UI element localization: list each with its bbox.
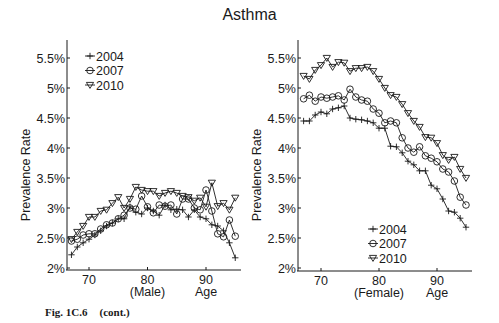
y-tick-label: 5.5% <box>37 52 66 66</box>
x-tick-label: 70 <box>314 274 328 288</box>
y-tick-label: 5% <box>278 82 296 96</box>
y-tick-label: 3% <box>278 202 296 216</box>
caption-continued: (cont.) <box>99 306 129 318</box>
asthma-prevalence-figure: 2%2.5%3%3.5%4%4.5%5%5.5%708090(Male)AgeP… <box>0 0 499 323</box>
male-chart-panel: 2%2.5%3%3.5%4%4.5%5%5.5%708090(Male)AgeP… <box>19 40 241 299</box>
x-axis-panel-label: (Female) <box>354 286 404 300</box>
y-tick-label: 5% <box>47 82 65 96</box>
x-axis-label: Age <box>195 285 217 299</box>
figure-caption: Fig. 1C.6(cont.) <box>45 306 130 318</box>
y-tick-label: 4% <box>47 142 65 156</box>
plus-marker-icon <box>463 224 469 230</box>
y-tick-label: 4.5% <box>268 112 297 126</box>
y-tick-label: 3.5% <box>37 172 66 186</box>
y-tick-label: 5.5% <box>268 52 297 66</box>
x-axis-label: Age <box>426 286 448 300</box>
plus-marker-icon <box>434 186 440 192</box>
female-chart-panel: 2%2.5%3%3.5%4%4.5%5%5.5%708090(Female)Ag… <box>250 40 472 300</box>
legend-item-2007: 2007 <box>85 64 124 78</box>
caption-figure-number: Fig. 1C.6 <box>45 306 87 318</box>
legend-item-2010: 2010 <box>85 79 124 93</box>
triangle-down-marker-icon <box>462 175 469 181</box>
y-tick-label: 2.5% <box>37 232 66 246</box>
legend-item-2007: 2007 <box>368 237 407 251</box>
x-tick-label: 70 <box>82 273 96 287</box>
legend: 200420072010 <box>368 223 407 266</box>
plus-marker-icon <box>405 158 411 164</box>
plus-marker-icon <box>370 226 376 232</box>
legend-label: 2004 <box>379 223 407 237</box>
series-line <box>304 106 466 227</box>
plus-marker-icon <box>358 117 364 123</box>
legend-item-2004: 2004 <box>368 223 407 237</box>
y-tick-label: 4% <box>278 142 296 156</box>
plus-marker-icon <box>232 255 238 261</box>
y-tick-label: 3.5% <box>268 172 297 186</box>
plus-marker-icon <box>428 182 434 188</box>
y-tick-label: 3% <box>47 202 65 216</box>
y-tick-label: 2.5% <box>268 232 297 246</box>
legend-label: 2004 <box>96 50 124 64</box>
plus-marker-icon <box>387 143 393 149</box>
plus-marker-icon <box>335 105 341 111</box>
series-line <box>304 58 466 178</box>
series-2007 <box>300 86 469 208</box>
plus-marker-icon <box>341 103 347 109</box>
legend-item-2004: 2004 <box>85 50 124 64</box>
plus-marker-icon <box>364 118 370 124</box>
legend-item-2010: 2010 <box>368 252 407 266</box>
plus-marker-icon <box>80 240 86 246</box>
plus-marker-icon <box>445 208 451 214</box>
y-tick-label: 2% <box>278 262 296 276</box>
series-line <box>304 89 466 205</box>
y-axis-label: Prevalence Rate <box>250 129 264 221</box>
series-2004 <box>68 202 238 261</box>
y-tick-label: 4.5% <box>37 112 66 126</box>
plus-marker-icon <box>353 116 359 122</box>
plus-marker-icon <box>226 240 232 246</box>
legend-label: 2007 <box>379 237 407 251</box>
series-2010 <box>300 55 470 181</box>
legend-label: 2010 <box>96 79 124 93</box>
plus-marker-icon <box>347 115 353 121</box>
y-tick-label: 2% <box>47 262 65 276</box>
plus-marker-icon <box>440 196 446 202</box>
y-axis-label: Prevalence Rate <box>19 129 33 221</box>
plus-marker-icon <box>318 109 324 115</box>
plus-marker-icon <box>422 168 428 174</box>
legend-label: 2010 <box>379 252 407 266</box>
x-axis-panel-label: (Male) <box>130 285 165 299</box>
legend-label: 2007 <box>96 64 124 78</box>
plus-marker-icon <box>300 118 306 124</box>
legend: 200420072010 <box>85 50 124 93</box>
plus-marker-icon <box>87 53 93 59</box>
